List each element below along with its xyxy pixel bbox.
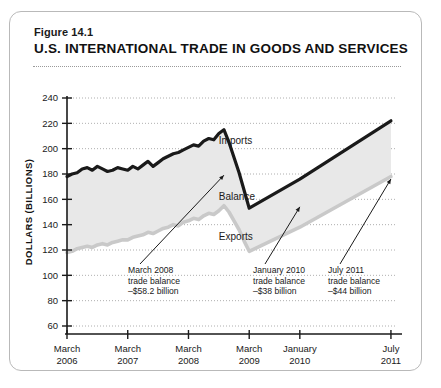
svg-text:200: 200 <box>42 143 58 154</box>
svg-text:220: 220 <box>42 118 58 129</box>
svg-text:–$38 billion: –$38 billion <box>253 286 297 296</box>
svg-text:2009: 2009 <box>239 355 260 366</box>
svg-text:100: 100 <box>42 270 58 281</box>
svg-text:160: 160 <box>42 194 58 205</box>
chart-plot-area: 6080100120140160180200220240 March2006Ma… <box>10 12 423 372</box>
y-axis-tick-labels: 6080100120140160180200220240 <box>42 92 58 331</box>
x-axis-tick-labels: March2006March2007March2008March2009Janu… <box>54 343 401 366</box>
svg-text:March 2008: March 2008 <box>128 265 174 275</box>
svg-text:140: 140 <box>42 219 58 230</box>
svg-text:2010: 2010 <box>289 355 310 366</box>
svg-text:2006: 2006 <box>56 355 77 366</box>
svg-text:July 2011: July 2011 <box>328 265 364 275</box>
svg-text:DOLLARS (BILLIONS): DOLLARS (BILLIONS) <box>23 159 34 265</box>
svg-text:July: July <box>382 343 399 354</box>
svg-text:2011: 2011 <box>381 355 401 366</box>
svg-text:180: 180 <box>42 168 58 179</box>
svg-text:trade balance: trade balance <box>128 276 180 286</box>
y-axis-title: DOLLARS (BILLIONS) <box>23 159 34 265</box>
svg-text:January 2010: January 2010 <box>253 265 305 275</box>
svg-text:120: 120 <box>42 244 58 255</box>
svg-text:January: January <box>283 343 317 354</box>
svg-text:2007: 2007 <box>117 355 138 366</box>
svg-text:240: 240 <box>42 92 58 103</box>
svg-text:Balance: Balance <box>219 191 256 202</box>
svg-text:March: March <box>54 343 80 354</box>
trade-chart: 6080100120140160180200220240 March2006Ma… <box>10 12 423 372</box>
svg-text:–$44 billion: –$44 billion <box>328 286 372 296</box>
svg-text:March: March <box>236 343 262 354</box>
svg-text:80: 80 <box>47 295 58 306</box>
svg-text:60: 60 <box>47 320 58 331</box>
svg-text:Exports: Exports <box>219 231 253 242</box>
svg-text:Imports: Imports <box>219 135 252 146</box>
svg-text:2008: 2008 <box>178 355 199 366</box>
figure-card: Figure 14.1 U.S. INTERNATIONAL TRADE IN … <box>9 11 422 371</box>
svg-text:March: March <box>115 343 141 354</box>
svg-text:trade balance: trade balance <box>253 276 305 286</box>
svg-text:March: March <box>175 343 201 354</box>
svg-text:–$58.2 billion: –$58.2 billion <box>128 286 179 296</box>
svg-text:trade balance: trade balance <box>328 276 380 286</box>
